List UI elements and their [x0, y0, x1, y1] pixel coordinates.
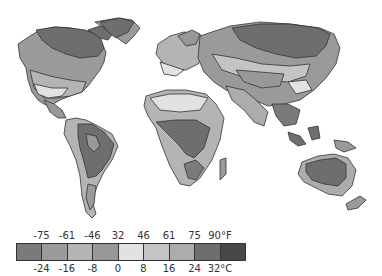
legend-label-c: -8 [88, 263, 98, 274]
legend-swatch [42, 244, 67, 260]
legend-swatch [17, 244, 42, 260]
legend-label-c: 0 [115, 263, 121, 274]
legend-label-f: 32 [112, 230, 125, 241]
legend-label-c: -16 [59, 263, 75, 274]
africa-region [144, 90, 226, 186]
legend-swatch [170, 244, 195, 260]
legend-swatch [68, 244, 93, 260]
legend-label-c: 32°C [208, 263, 233, 274]
australia-region [298, 154, 366, 210]
south-america-region [64, 118, 118, 218]
world-temperature-map [0, 0, 382, 230]
legend-swatch [221, 244, 245, 260]
legend-label-f: 90°F [208, 230, 231, 241]
legend-swatch [93, 244, 118, 260]
celsius-labels: -24 -16 -8 0 8 16 24 32°C [16, 263, 246, 275]
legend-label-f: 61 [163, 230, 176, 241]
legend-swatch [144, 244, 169, 260]
legend-label-c: 8 [140, 263, 146, 274]
legend-color-bar [16, 243, 246, 261]
temperature-legend: -75 -61 -46 32 46 61 75 90°F -24 -16 -8 … [16, 230, 246, 276]
legend-label-f: -75 [33, 230, 49, 241]
legend-label-f: 46 [137, 230, 150, 241]
legend-swatch [195, 244, 220, 260]
legend-label-f: -61 [59, 230, 75, 241]
legend-label-c: 16 [163, 263, 176, 274]
legend-label-c: -24 [33, 263, 49, 274]
legend-swatch [119, 244, 144, 260]
fahrenheit-labels: -75 -61 -46 32 46 61 75 90°F [16, 230, 246, 242]
southeast-asia-islands [288, 126, 356, 152]
legend-label-c: 24 [188, 263, 201, 274]
legend-label-f: 75 [188, 230, 201, 241]
north-america-region [18, 18, 140, 118]
legend-label-f: -46 [84, 230, 100, 241]
